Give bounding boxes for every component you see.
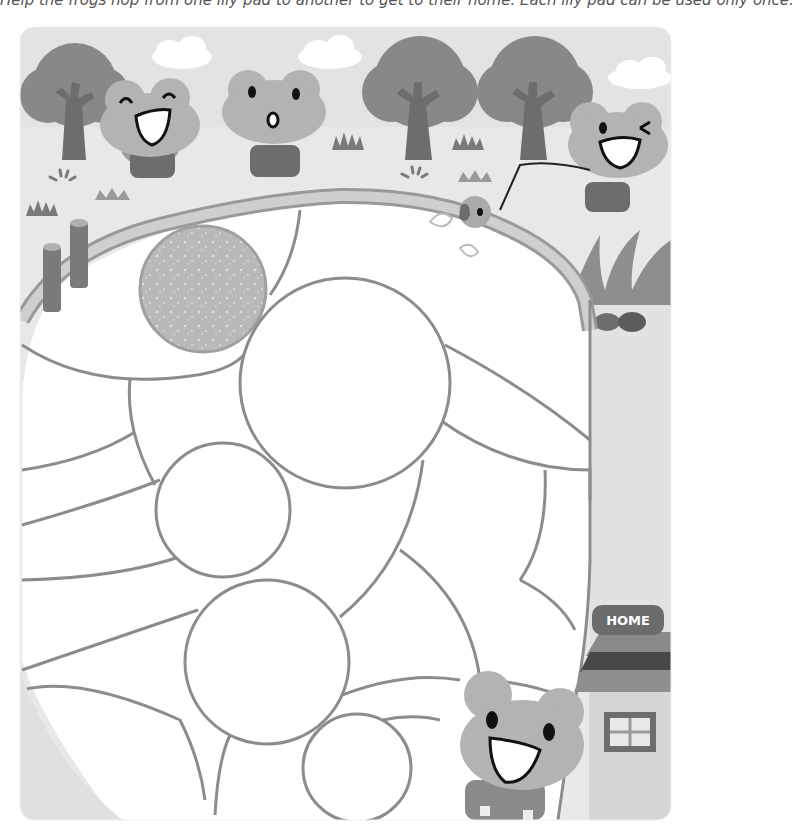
- start-lily-pad[interactable]: [140, 226, 266, 352]
- eye-icon: [599, 122, 607, 134]
- house-roof-bottom: [574, 670, 671, 692]
- home-sign-label: HOME: [606, 613, 650, 628]
- fence-post-icon: [43, 246, 61, 312]
- lily-pad[interactable]: [185, 580, 349, 744]
- eye-icon: [486, 711, 498, 729]
- eye-icon: [248, 86, 256, 98]
- eye-icon: [543, 723, 555, 741]
- fence-post-icon: [70, 222, 88, 288]
- eye-icon: [477, 208, 483, 216]
- house-roof-stripe: [580, 652, 671, 672]
- mouth-icon: [268, 113, 278, 127]
- puzzle-card: HOME: [20, 27, 672, 822]
- lily-pad[interactable]: [240, 278, 450, 488]
- house-wall: [589, 692, 671, 820]
- eye-icon: [292, 88, 300, 100]
- lily-pad[interactable]: [303, 714, 411, 822]
- lily-pad[interactable]: [156, 443, 290, 577]
